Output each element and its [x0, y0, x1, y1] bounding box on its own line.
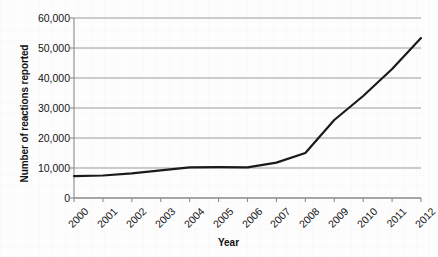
x-axis-title: Year	[0, 237, 431, 248]
